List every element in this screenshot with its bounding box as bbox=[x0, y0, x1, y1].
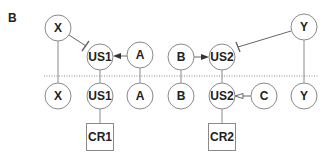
svg-text:CR1: CR1 bbox=[88, 130, 112, 144]
svg-text:A: A bbox=[136, 89, 145, 103]
svg-text:C: C bbox=[260, 89, 269, 103]
edge-x-us1 bbox=[69, 35, 86, 46]
svg-text:Y: Y bbox=[300, 89, 308, 103]
node-a-top: A bbox=[127, 42, 153, 68]
box-cr1: CR1 bbox=[87, 124, 114, 151]
node-y-bottom: Y bbox=[291, 83, 317, 109]
arrowhead-open-icon bbox=[235, 94, 243, 99]
svg-text:B: B bbox=[177, 89, 186, 103]
node-y-top: Y bbox=[291, 14, 317, 40]
svg-text:CR2: CR2 bbox=[210, 130, 234, 144]
node-a-bottom: A bbox=[127, 83, 153, 109]
cr-boxes: CR1 CR2 bbox=[87, 124, 236, 151]
svg-text:US2: US2 bbox=[210, 50, 234, 64]
svg-text:US2: US2 bbox=[210, 89, 234, 103]
bottom-row-nodes: X US1 A B US2 C Y bbox=[45, 83, 317, 109]
node-x-top: X bbox=[45, 15, 71, 41]
svg-text:B: B bbox=[177, 50, 186, 64]
top-row-nodes: X US1 A B US2 Y bbox=[45, 14, 317, 70]
svg-text:X: X bbox=[54, 21, 62, 35]
node-x-bottom: X bbox=[45, 83, 71, 109]
arrowhead-filled-icon bbox=[113, 53, 121, 59]
node-c-bottom: C bbox=[251, 83, 277, 109]
node-us1-top: US1 bbox=[87, 44, 113, 70]
arrowhead-filled-icon bbox=[201, 54, 209, 60]
node-us2-top: US2 bbox=[209, 44, 235, 70]
svg-text:US1: US1 bbox=[88, 50, 112, 64]
svg-text:US1: US1 bbox=[88, 89, 112, 103]
edge-y-us2 bbox=[238, 31, 291, 47]
svg-text:X: X bbox=[54, 89, 62, 103]
diagram-canvas: B X US1 bbox=[0, 0, 330, 161]
node-b-top: B bbox=[168, 44, 194, 70]
svg-text:A: A bbox=[136, 48, 145, 62]
panel-label: B bbox=[8, 11, 17, 25]
node-b-bottom: B bbox=[168, 83, 194, 109]
node-us2-bottom: US2 bbox=[209, 83, 235, 109]
node-us1-bottom: US1 bbox=[87, 83, 113, 109]
svg-text:Y: Y bbox=[300, 20, 308, 34]
box-cr2: CR2 bbox=[209, 124, 236, 151]
